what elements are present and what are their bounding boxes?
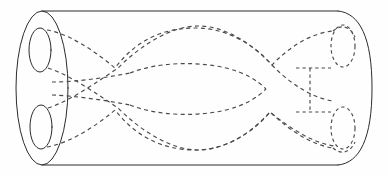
tube-lower-bottom-wall xyxy=(47,110,333,150)
figure-root: Two braided tubes drilled through a soli… xyxy=(0,0,388,176)
tube-lower-top-wall xyxy=(48,26,333,108)
hole-lower-far xyxy=(331,107,355,149)
tube-inner-lens-bottom xyxy=(130,89,266,114)
tube-upper-bottom-wall xyxy=(48,68,334,150)
tube-inner-lens-top xyxy=(130,64,266,89)
cylinder-near-end-disc xyxy=(16,11,68,165)
hole-upper-near xyxy=(29,28,51,72)
near-end-holes xyxy=(29,28,52,149)
far-end-holes xyxy=(331,25,355,149)
hole-lower-near xyxy=(30,105,52,149)
hidden-tube-network xyxy=(47,26,334,150)
cylinder-far-end-cap xyxy=(338,11,372,165)
cylinder-braid-diagram: Two braided tubes drilled through a soli… xyxy=(0,0,388,176)
tube-upper-top-wall xyxy=(47,28,333,68)
tube-lens-feed-lower xyxy=(52,95,130,105)
far-end-connectors xyxy=(296,27,355,152)
